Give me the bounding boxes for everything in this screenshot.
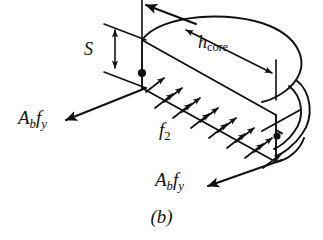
label-force-left: Abfy — [18, 108, 47, 131]
label-force-bottom: Abfy — [155, 170, 184, 193]
force-vector-left — [66, 88, 146, 120]
figure-caption: (b) — [0, 206, 323, 228]
force-vector-bottom — [208, 160, 282, 186]
hoop-tie-lower-line — [262, 110, 300, 131]
label-core-depth: hcore — [198, 33, 228, 54]
label-spacing: S — [84, 40, 93, 58]
label-pressure: f2 — [159, 120, 171, 143]
bar-node-right-dot — [273, 132, 280, 139]
force-vector-top — [146, 5, 196, 24]
s-extension-line-top — [104, 24, 146, 40]
top-face-rounded-back-edge — [142, 17, 301, 102]
bottom-rounded-back-edge — [276, 138, 304, 162]
bar-node-left-dot — [138, 69, 146, 77]
